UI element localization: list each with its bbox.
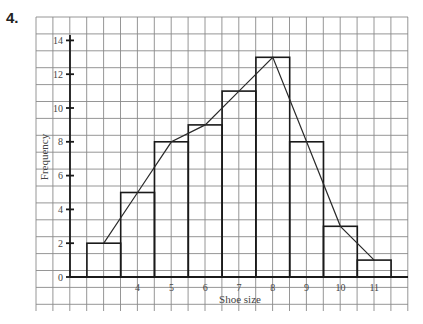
x-tick-label: 4 xyxy=(135,282,140,293)
x-axis-label: Shoe size xyxy=(219,293,261,305)
x-tick-label: 10 xyxy=(335,282,345,293)
x-tick-label: 7 xyxy=(237,282,242,293)
y-tick-label: 14 xyxy=(53,35,63,46)
y-tick-label: 2 xyxy=(58,238,63,249)
x-tick-label: 6 xyxy=(203,282,208,293)
x-tick-label: 8 xyxy=(270,282,275,293)
x-tick-label: 5 xyxy=(169,282,174,293)
y-tick-label: 10 xyxy=(53,103,63,114)
y-tick-label: 8 xyxy=(58,136,63,147)
y-axis-label: Frequency xyxy=(38,133,50,180)
y-tick-label: 12 xyxy=(53,69,63,80)
x-tick-label: 11 xyxy=(369,282,379,293)
histogram-chart: 02468101214 4567891011 Shoe size Frequen… xyxy=(0,0,423,324)
x-tick-label: 9 xyxy=(304,282,309,293)
y-tick-label: 0 xyxy=(58,272,63,283)
y-tick-label: 6 xyxy=(58,170,63,181)
y-tick-label: 4 xyxy=(58,204,63,215)
